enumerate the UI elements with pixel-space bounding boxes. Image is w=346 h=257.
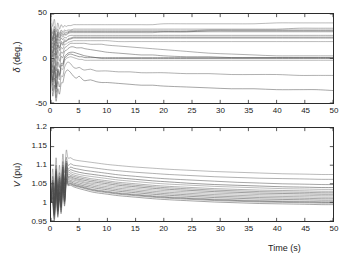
x-tick-label: 45 xyxy=(296,225,316,233)
x-tick-label: 25 xyxy=(182,225,202,233)
x-tick-label: 25 xyxy=(182,107,202,115)
x-tick-label: 15 xyxy=(125,225,145,233)
trace-gen-14 xyxy=(51,62,333,98)
trace-gen-05 xyxy=(51,32,333,46)
x-tick-label: 20 xyxy=(154,107,174,115)
delta-unit-spacer xyxy=(12,65,22,68)
trace-gen-07 xyxy=(51,37,333,55)
trace-gen-16 xyxy=(51,54,333,89)
matlab-figure: -50050 05101520253035404550 δ (deg.) 0.9… xyxy=(0,0,346,257)
x-tick-label: 45 xyxy=(296,107,316,115)
x-tick-label: 35 xyxy=(239,107,259,115)
y-tick-label: 1.2 xyxy=(19,123,47,131)
x-tick-label: 5 xyxy=(68,225,88,233)
x-tick-label: 20 xyxy=(154,225,174,233)
trace-gen-15 xyxy=(51,69,333,101)
x-tick-label: 15 xyxy=(125,107,145,115)
trace-bus-10 xyxy=(51,174,333,212)
y-tick-label: 1.15 xyxy=(19,142,47,150)
voltage-plot-panel xyxy=(50,127,334,222)
delta-axes-box xyxy=(50,13,334,104)
x-tick-label: 50 xyxy=(324,107,344,115)
x-tick-label: 35 xyxy=(239,225,259,233)
y-tick-label: 1.05 xyxy=(19,180,47,188)
voltage-unit: (pu) xyxy=(12,163,22,179)
delta-axis-label: δ (deg.) xyxy=(12,29,22,85)
x-tick-label: 30 xyxy=(210,225,230,233)
x-tick-label: 40 xyxy=(267,107,287,115)
x-tick-label: 30 xyxy=(210,107,230,115)
y-tick-label: 0 xyxy=(19,55,47,63)
trace-bus-01 xyxy=(51,150,333,203)
voltage-traces xyxy=(51,128,333,221)
delta-unit: (deg.) xyxy=(12,41,22,65)
y-tick-label: 1 xyxy=(19,199,47,207)
x-tick-label: 5 xyxy=(68,107,88,115)
x-tick-label: 10 xyxy=(97,225,117,233)
x-tick-label: 40 xyxy=(267,225,287,233)
delta-symbol: δ xyxy=(12,68,22,73)
delta-plot-panel xyxy=(50,13,334,104)
x-tick-label: 10 xyxy=(97,107,117,115)
x-tick-label: 0 xyxy=(40,107,60,115)
voltage-symbol: V xyxy=(12,181,22,187)
voltage-axes-box xyxy=(50,127,334,222)
voltage-axis-label: V (pu) xyxy=(12,150,22,200)
time-axis-label: Time (s) xyxy=(268,243,301,253)
y-tick-label: 50 xyxy=(19,9,47,17)
x-tick-label: 50 xyxy=(324,225,344,233)
y-tick-label: 1.1 xyxy=(19,161,47,169)
trace-bus-11 xyxy=(51,176,333,214)
x-tick-label: 0 xyxy=(40,225,60,233)
voltage-unit-spacer xyxy=(12,179,22,182)
trace-gen-08 xyxy=(51,38,333,59)
delta-traces xyxy=(51,14,333,103)
